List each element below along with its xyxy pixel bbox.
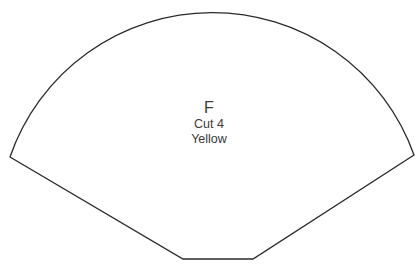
piece-letter: F xyxy=(0,99,418,117)
fabric-color: Yellow xyxy=(0,132,418,147)
cut-instruction: Cut 4 xyxy=(0,117,418,132)
